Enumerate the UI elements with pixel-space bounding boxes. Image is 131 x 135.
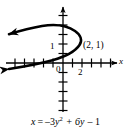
equation-caption: x=–3y2+ 6y– 1 xyxy=(0,117,131,127)
equation-term3: – 1 xyxy=(84,116,100,127)
x-axis-label: x xyxy=(119,57,123,66)
equation-term2: + 6y xyxy=(63,116,85,127)
x-axis-tick-label-2: 2 xyxy=(78,68,83,77)
vertex-point-label: (2, 1) xyxy=(83,41,104,51)
parabola-figure: 1 0 2 x (2, 1) x=–3y2+ 6y– 1 xyxy=(0,0,131,135)
equation-term1-coefficient: –3 xyxy=(45,116,55,127)
equation-equals-sign: = xyxy=(35,116,45,127)
origin-label: 0 xyxy=(56,65,61,74)
y-axis-tick-label-1: 1 xyxy=(50,42,55,51)
coordinate-plot xyxy=(0,0,131,135)
y-axis xyxy=(59,7,68,112)
